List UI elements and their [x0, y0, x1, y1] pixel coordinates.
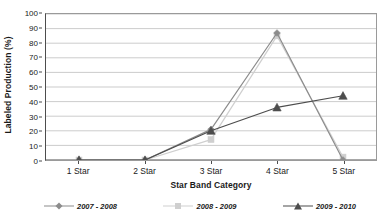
y-tick-label: 80 [29, 38, 38, 47]
y-tick-mark [39, 87, 42, 88]
y-tick-mark [39, 27, 42, 28]
legend-swatch [163, 201, 193, 211]
plot-svg [46, 14, 376, 160]
y-tick-mark [39, 72, 42, 73]
y-tick-label: 90 [29, 23, 38, 32]
x-tick-label: 5 Star [332, 166, 355, 176]
chart-legend: 2007 - 20082008 - 20092009 - 2010 [30, 197, 370, 215]
y-axis-ticks: 0102030405060708090100 [16, 0, 42, 170]
x-tick-label: 3 Star [200, 166, 223, 176]
y-tick-mark [39, 101, 42, 102]
x-tick-mark [277, 161, 278, 164]
x-tick-mark [211, 161, 212, 164]
x-tick-label: 4 Star [266, 166, 289, 176]
legend-marker-square-icon [175, 203, 181, 209]
y-tick-label: 60 [29, 68, 38, 77]
legend-swatch [283, 201, 313, 211]
line-chart: Labeled Production (%) 01020304050607080… [0, 0, 386, 222]
y-axis-title-text: Labeled Production (%) [3, 36, 13, 133]
legend-item[interactable]: 2007 - 2008 [44, 201, 117, 211]
y-tick-label: 20 [29, 127, 38, 136]
legend-item[interactable]: 2009 - 2010 [283, 201, 356, 211]
plot-area [45, 13, 377, 161]
legend-item[interactable]: 2008 - 2009 [163, 201, 236, 211]
y-tick-mark [39, 116, 42, 117]
x-tick-label: 1 Star [67, 166, 90, 176]
legend-swatch [44, 201, 74, 211]
legend-marker-diamond-icon [55, 202, 62, 209]
legend-label: 2009 - 2010 [316, 202, 356, 211]
x-axis-ticks: 1 Star2 Star3 Star4 Star5 Star [45, 161, 377, 179]
x-tick-mark [344, 161, 345, 164]
y-tick-label: 40 [29, 97, 38, 106]
x-tick-mark [78, 161, 79, 164]
y-tick-mark [39, 13, 42, 14]
legend-marker-triangle-icon [294, 203, 302, 210]
legend-label: 2007 - 2008 [77, 202, 117, 211]
data-point-marker [339, 92, 347, 100]
y-tick-label: 70 [29, 53, 38, 62]
y-tick-label: 100 [25, 9, 38, 18]
y-tick-mark [39, 42, 42, 43]
y-axis-title: Labeled Production (%) [0, 0, 16, 170]
y-tick-mark [39, 131, 42, 132]
legend-label: 2008 - 2009 [196, 202, 236, 211]
y-tick-label: 30 [29, 112, 38, 121]
y-tick-mark [39, 57, 42, 58]
y-tick-label: 50 [29, 83, 38, 92]
data-point-marker [208, 137, 214, 143]
x-tick-label: 2 Star [133, 166, 156, 176]
y-tick-label: 0 [34, 157, 38, 166]
y-tick-label: 10 [29, 142, 38, 151]
x-tick-mark [145, 161, 146, 164]
y-tick-mark [39, 161, 42, 162]
y-tick-mark [39, 146, 42, 147]
x-axis-title: Star Band Category [45, 180, 377, 190]
